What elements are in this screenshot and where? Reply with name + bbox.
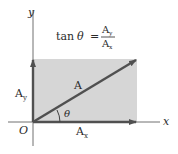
svg-text:x: x (84, 132, 88, 140)
origin-label: O (19, 124, 28, 137)
svg-text:tan: tan (56, 30, 74, 43)
vector-diagram: y x O A θ A y A x tan θ = A y A x (0, 0, 178, 154)
svg-text:x: x (109, 43, 113, 50)
ax-label: A x (75, 125, 88, 140)
svg-text:y: y (22, 94, 27, 102)
tan-theta-formula: tan θ = A y A x (56, 24, 115, 50)
svg-text:=: = (90, 30, 99, 43)
vector-a-label: A (73, 79, 83, 92)
x-axis-label: x (163, 115, 170, 128)
ay-label: A y (14, 87, 27, 102)
y-axis-label: y (27, 6, 35, 19)
svg-text:θ: θ (77, 30, 84, 43)
theta-label: θ (64, 108, 70, 119)
svg-text:y: y (108, 29, 113, 37)
